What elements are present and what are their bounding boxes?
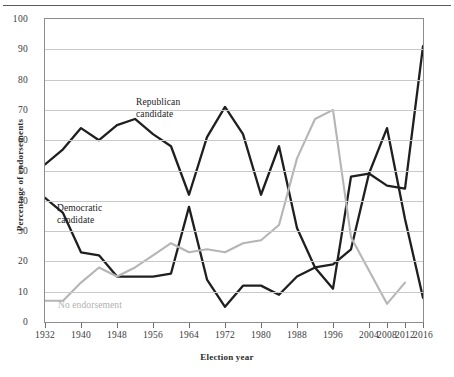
figure-container: Percentage of endorsements Election year…	[0, 0, 454, 377]
x-tick-1940: 1940	[71, 330, 91, 340]
annotation-no-endorsement: No endorsement	[58, 300, 122, 312]
x-tick-mark-2016	[423, 323, 424, 328]
x-tick-1932: 1932	[35, 330, 55, 340]
x-tick-mark-1980	[261, 323, 262, 328]
x-tick-1964: 1964	[179, 330, 199, 340]
x-tick-1980: 1980	[251, 330, 271, 340]
y-tick-100: 100	[0, 14, 28, 24]
y-tick-30: 30	[0, 226, 28, 236]
plot-area	[44, 18, 424, 323]
x-tick-1956: 1956	[143, 330, 163, 340]
y-tick-90: 90	[0, 44, 28, 54]
x-tick-mark-2004	[369, 323, 370, 328]
gridline-30	[45, 231, 423, 232]
y-tick-10: 10	[0, 287, 28, 297]
y-tick-40: 40	[0, 196, 28, 206]
y-tick-80: 80	[0, 75, 28, 85]
x-tick-2016: 2016	[413, 330, 433, 340]
x-tick-mark-1988	[297, 323, 298, 328]
y-tick-50: 50	[0, 166, 28, 176]
gridline-50	[45, 171, 423, 172]
gridline-60	[45, 140, 423, 141]
x-tick-1988: 1988	[287, 330, 307, 340]
gridline-10	[45, 292, 423, 293]
gridline-90	[45, 49, 423, 50]
x-tick-1948: 1948	[107, 330, 127, 340]
x-tick-1996: 1996	[323, 330, 343, 340]
y-tick-0: 0	[0, 317, 28, 327]
x-tick-mark-1956	[153, 323, 154, 328]
annotation-republican: Republican candidate	[136, 97, 180, 120]
y-tick-20: 20	[0, 256, 28, 266]
y-tick-60: 60	[0, 135, 28, 145]
gridline-70	[45, 110, 423, 111]
gridline-80	[45, 80, 423, 81]
x-axis-title: Election year	[0, 352, 454, 362]
y-tick-70: 70	[0, 105, 28, 115]
gridline-20	[45, 261, 423, 262]
x-tick-mark-2008	[387, 323, 388, 328]
x-tick-mark-1964	[189, 323, 190, 328]
gridline-40	[45, 201, 423, 202]
x-tick-1972: 1972	[215, 330, 235, 340]
x-tick-mark-2012	[405, 323, 406, 328]
x-tick-mark-1996	[333, 323, 334, 328]
x-tick-mark-1972	[225, 323, 226, 328]
x-tick-mark-1948	[117, 323, 118, 328]
annotation-democratic: Democratic candidate	[57, 203, 102, 226]
top-horizontal-rule	[3, 5, 451, 6]
x-tick-mark-1940	[81, 323, 82, 328]
x-tick-mark-1932	[45, 323, 46, 328]
